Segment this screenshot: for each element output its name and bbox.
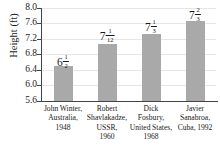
fraction-denominator: 2 <box>64 63 69 70</box>
x-category-label-3: Javier Sanabroa, Cuba, 1992 <box>167 104 220 132</box>
bar-0[interactable] <box>54 66 73 101</box>
x-axis-category-labels: John Winter, Australia, 1948 Robert Shav… <box>41 104 218 147</box>
fraction-denominator: 3 <box>152 28 157 35</box>
fraction-numerator: 2 <box>196 7 201 14</box>
x-category-line: Javier <box>167 104 220 113</box>
x-category-line: Sanabroa, <box>167 113 220 122</box>
bar-value-label-2: 7 1 3 <box>145 19 157 34</box>
bar-2[interactable] <box>142 34 161 101</box>
fraction-denominator: 3 <box>196 16 201 23</box>
bar-value-label-0: 6 1 2 <box>57 54 69 69</box>
value-whole: 7 <box>100 30 106 42</box>
bar-value-label-1: 7 1 12 <box>100 28 115 43</box>
value-fraction: 2 3 <box>195 7 201 22</box>
y-tick-label: 7.6 <box>3 18 37 28</box>
y-tick-label: 6.0 <box>3 80 37 90</box>
value-fraction: 1 2 <box>63 54 69 69</box>
fraction-numerator: 1 <box>64 54 69 61</box>
bar-3[interactable] <box>186 21 205 101</box>
y-tick-label: 5.6 <box>3 96 37 106</box>
value-fraction: 1 3 <box>151 19 157 34</box>
y-tick-label: 6.4 <box>3 65 37 75</box>
y-tick-label: 8.0 <box>3 3 37 13</box>
y-tick-label: 7.2 <box>3 34 37 44</box>
value-fraction: 1 12 <box>106 28 115 43</box>
value-whole: 6 <box>57 56 63 68</box>
bar-value-label-3: 7 2 3 <box>189 7 201 22</box>
x-category-line: 1968 <box>123 132 179 141</box>
y-tick-label: 6.8 <box>3 49 37 59</box>
fraction-numerator: 1 <box>152 19 157 26</box>
bar-chart: Height (ft) 8.0 7.6 7.2 6.8 6.4 6.0 5.6 <box>0 0 220 147</box>
x-axis-line <box>41 101 218 102</box>
value-whole: 7 <box>145 21 151 33</box>
fraction-numerator: 1 <box>108 28 113 35</box>
value-whole: 7 <box>189 9 195 21</box>
fraction-denominator: 12 <box>106 37 115 44</box>
x-category-line: Cuba, 1992 <box>167 123 220 132</box>
bar-1[interactable] <box>98 44 117 101</box>
